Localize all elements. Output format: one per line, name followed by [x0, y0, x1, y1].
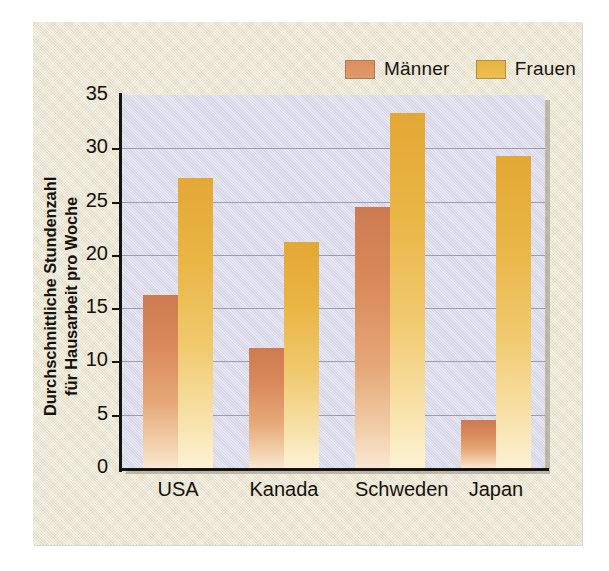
plot-area [121, 95, 545, 468]
bar-kanada-frauen [284, 242, 319, 468]
legend-label-maenner: Männer [384, 58, 450, 80]
chart-figure: Männer Frauen Durchschnittliche Stundenz… [0, 0, 609, 571]
x-tick-label-kanada: Kanada [249, 478, 319, 501]
y-tick-label-5: 5 [68, 402, 108, 425]
bar-schweden-männer [355, 207, 390, 468]
y-tick-label-35: 35 [68, 82, 108, 105]
y-tick-label-10: 10 [68, 348, 108, 371]
legend-swatch-frauen [476, 60, 506, 79]
x-tick-label-schweden: Schweden [355, 478, 425, 501]
y-tick-mark-20 [112, 255, 120, 257]
y-tick-label-15: 15 [68, 295, 108, 318]
y-tick-label-25: 25 [68, 189, 108, 212]
y-tick-mark-30 [112, 148, 120, 150]
y-tick-mark-5 [112, 415, 120, 417]
bar-schweden-frauen [390, 113, 425, 468]
bar-usa-frauen [178, 178, 213, 468]
y-tick-mark-15 [112, 308, 120, 310]
y-tick-label-20: 20 [68, 242, 108, 265]
y-axis-title-line-1: Durchschnittliche Stundenzahl [40, 131, 61, 461]
x-tick-label-usa: USA [143, 478, 213, 501]
y-tick-mark-10 [112, 361, 120, 363]
legend-swatch-maenner [345, 60, 375, 79]
bar-japan-männer [461, 420, 496, 468]
y-tick-label-30: 30 [68, 135, 108, 158]
bar-japan-frauen [496, 156, 531, 468]
y-axis-tick-labels: 05101520253035 [62, 0, 108, 571]
x-tick-label-japan: Japan [461, 478, 531, 501]
legend-label-frauen: Frauen [515, 58, 576, 80]
y-tick-label-0: 0 [68, 455, 108, 478]
legend-entry-frauen: Frauen [476, 58, 576, 80]
legend-entry-maenner: Männer [345, 58, 450, 80]
chart-legend: Männer Frauen [345, 58, 576, 80]
gridline-30 [121, 148, 545, 149]
bar-kanada-männer [249, 348, 284, 468]
bar-usa-männer [143, 295, 178, 468]
x-axis-spine [119, 468, 549, 471]
y-tick-mark-25 [112, 202, 120, 204]
